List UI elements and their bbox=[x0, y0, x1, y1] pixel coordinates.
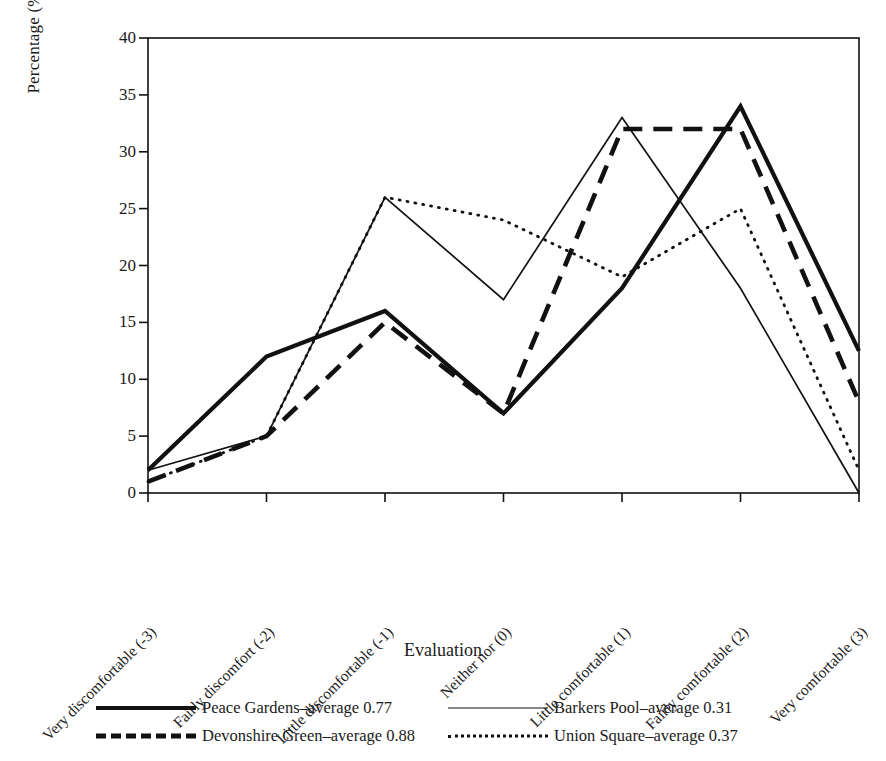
chart-legend: Peace Gardens–average 0.77 Barkers Pool–… bbox=[96, 694, 796, 750]
y-tick-35: 35 bbox=[96, 85, 136, 105]
legend-label-peace-gardens: Peace Gardens–average 0.77 bbox=[202, 698, 392, 718]
legend-label-devonshire-green: Devonshire Green–average 0.88 bbox=[202, 726, 415, 746]
legend-item-devonshire-green: Devonshire Green–average 0.88 bbox=[96, 726, 448, 746]
data-series-layer bbox=[148, 106, 859, 493]
legend-label-barkers-pool: Barkers Pool–average 0.31 bbox=[554, 698, 732, 718]
y-tick-0: 0 bbox=[96, 483, 136, 503]
y-tick-20: 20 bbox=[96, 256, 136, 276]
legend-item-union-square: Union Square–average 0.37 bbox=[448, 726, 788, 746]
legend-line-thick-solid-icon bbox=[96, 701, 196, 715]
legend-line-thick-dashed-icon bbox=[96, 729, 196, 743]
legend-item-peace-gardens: Peace Gardens–average 0.77 bbox=[96, 698, 448, 718]
series-line-devonshire-green bbox=[148, 129, 859, 482]
y-tick-5: 5 bbox=[96, 426, 136, 446]
legend-item-barkers-pool: Barkers Pool–average 0.31 bbox=[448, 698, 788, 718]
x-axis-title: Evaluation bbox=[0, 640, 886, 661]
plot-frame bbox=[148, 38, 859, 493]
legend-label-union-square: Union Square–average 0.37 bbox=[554, 726, 738, 746]
legend-line-thin-solid-icon bbox=[448, 701, 548, 715]
y-tick-40: 40 bbox=[96, 28, 136, 48]
legend-line-dotted-icon bbox=[448, 729, 548, 743]
y-tick-25: 25 bbox=[96, 199, 136, 219]
y-tick-10: 10 bbox=[96, 369, 136, 389]
y-tick-30: 30 bbox=[96, 142, 136, 162]
chart-figure: Percentage (%) 40 35 30 25 20 15 10 5 0 … bbox=[0, 0, 886, 761]
y-tick-15: 15 bbox=[96, 312, 136, 332]
x-axis-ticks bbox=[148, 493, 859, 502]
series-line-barkers-pool bbox=[148, 118, 859, 493]
y-axis-ticks bbox=[139, 38, 148, 493]
